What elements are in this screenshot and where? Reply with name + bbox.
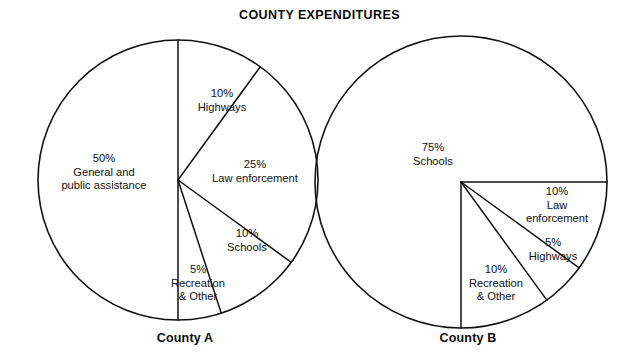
- pie-a-label-general: 50% General and public assistance: [61, 152, 146, 193]
- pie-b-law-percent: 10%: [526, 185, 588, 199]
- pie-b-law-name1: Law: [526, 198, 588, 212]
- pie-a-highways-name: Highways: [198, 101, 247, 115]
- pie-a-label-recreation: 5% Recreation & Other: [171, 263, 225, 304]
- pie-county-b: [315, 36, 607, 328]
- pie-a-label-highways: 10% Highways: [198, 87, 247, 114]
- pie-b-recreation-name1: Recreation: [469, 276, 523, 290]
- pie-a-general-name1: General and: [61, 165, 146, 179]
- pie-a-law-name: Law enforcement: [212, 172, 298, 186]
- pie-a-label-schools: 10% Schools: [227, 227, 267, 254]
- pie-b-recreation-percent: 10%: [469, 263, 523, 277]
- pie-a-caption: County A: [157, 331, 214, 345]
- chart-figure: COUNTY EXPENDITURES: [0, 0, 639, 358]
- pie-a-law-percent: 25%: [212, 158, 298, 172]
- pie-a-general-percent: 50%: [61, 152, 146, 166]
- pie-b-label-law-enforcement: 10% Law enforcement: [526, 185, 588, 226]
- pie-a-recreation-percent: 5%: [171, 263, 225, 277]
- pie-b-law-name2: enforcement: [526, 212, 588, 226]
- pie-b-schools-percent: 75%: [413, 141, 453, 155]
- pie-a-label-law-enforcement: 25% Law enforcement: [212, 158, 298, 185]
- pie-b-label-schools: 75% Schools: [413, 141, 453, 168]
- pie-b-highways-name: Highways: [529, 250, 578, 264]
- pie-b-label-highways: 5% Highways: [529, 236, 578, 263]
- pie-a-general-name2: public assistance: [61, 179, 146, 193]
- pie-a-highways-percent: 10%: [198, 87, 247, 101]
- pie-a-recreation-name1: Recreation: [171, 276, 225, 290]
- pie-a-recreation-name2: & Other: [171, 290, 225, 304]
- pie-a-schools-percent: 10%: [227, 227, 267, 241]
- pie-a-schools-name: Schools: [227, 241, 267, 255]
- pie-b-schools-name: Schools: [413, 155, 453, 169]
- pie-b-highways-percent: 5%: [529, 236, 578, 250]
- pie-b-recreation-name2: & Other: [469, 290, 523, 304]
- pie-b-label-recreation: 10% Recreation & Other: [469, 263, 523, 304]
- pie-b-caption: County B: [439, 331, 496, 345]
